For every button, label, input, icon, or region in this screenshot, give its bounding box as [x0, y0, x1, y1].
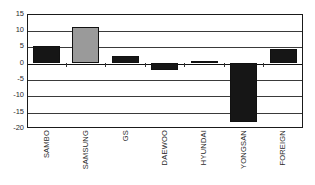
y-tick-label: -10	[2, 91, 24, 99]
x-axis-labels: SAMBO SAMSUNG GS DAEWOO HYUNDAI YONGSAN …	[27, 130, 303, 185]
bar-slot-sambo	[27, 14, 66, 128]
bar-slot-hyundai	[185, 14, 224, 128]
bar-foreign[interactable]	[270, 49, 297, 63]
bar-yongsan[interactable]	[230, 63, 257, 122]
bar-slot-foreign	[264, 14, 303, 128]
x-axis-label-samsung: SAMSUNG	[82, 130, 90, 169]
x-label-slot-daewoo: DAEWOO	[145, 130, 184, 185]
y-tick-label: 0	[2, 59, 24, 67]
x-label-slot-samsung: SAMSUNG	[66, 130, 105, 185]
x-label-slot-gs: GS	[106, 130, 145, 185]
bar-chart: 15 10 5 0 -5 -10 -15 -20	[0, 0, 315, 185]
bar-slot-yongsan	[224, 14, 263, 128]
bar-gs[interactable]	[112, 56, 139, 63]
x-axis-label-hyundai: HYUNDAI	[200, 130, 208, 165]
bar-sambo[interactable]	[33, 46, 60, 63]
bar-slot-daewoo	[145, 14, 184, 128]
y-tick-label: -5	[2, 75, 24, 83]
x-axis-label-sambo: SAMBO	[43, 130, 51, 158]
x-label-slot-foreign: FOREIGN	[264, 130, 303, 185]
y-tick-label: 5	[2, 42, 24, 50]
x-axis-label-daewoo: DAEWOO	[161, 130, 169, 165]
x-axis-label-foreign: FOREIGN	[279, 130, 287, 166]
y-tick-label: -15	[2, 108, 24, 116]
x-axis-label-gs: GS	[122, 130, 130, 141]
bar-slot-samsung	[66, 14, 105, 128]
bar-hyundai[interactable]	[191, 61, 218, 64]
y-tick-label: 15	[2, 10, 24, 18]
bar-samsung[interactable]	[72, 27, 99, 63]
x-label-slot-hyundai: HYUNDAI	[185, 130, 224, 185]
bars-layer	[27, 14, 303, 128]
bar-daewoo[interactable]	[151, 63, 178, 70]
y-tick-label: -20	[2, 124, 24, 132]
bar-slot-gs	[106, 14, 145, 128]
y-tick-label: 10	[2, 26, 24, 34]
x-axis-label-yongsan: YONGSAN	[240, 130, 248, 169]
x-label-slot-yongsan: YONGSAN	[224, 130, 263, 185]
x-label-slot-sambo: SAMBO	[27, 130, 66, 185]
